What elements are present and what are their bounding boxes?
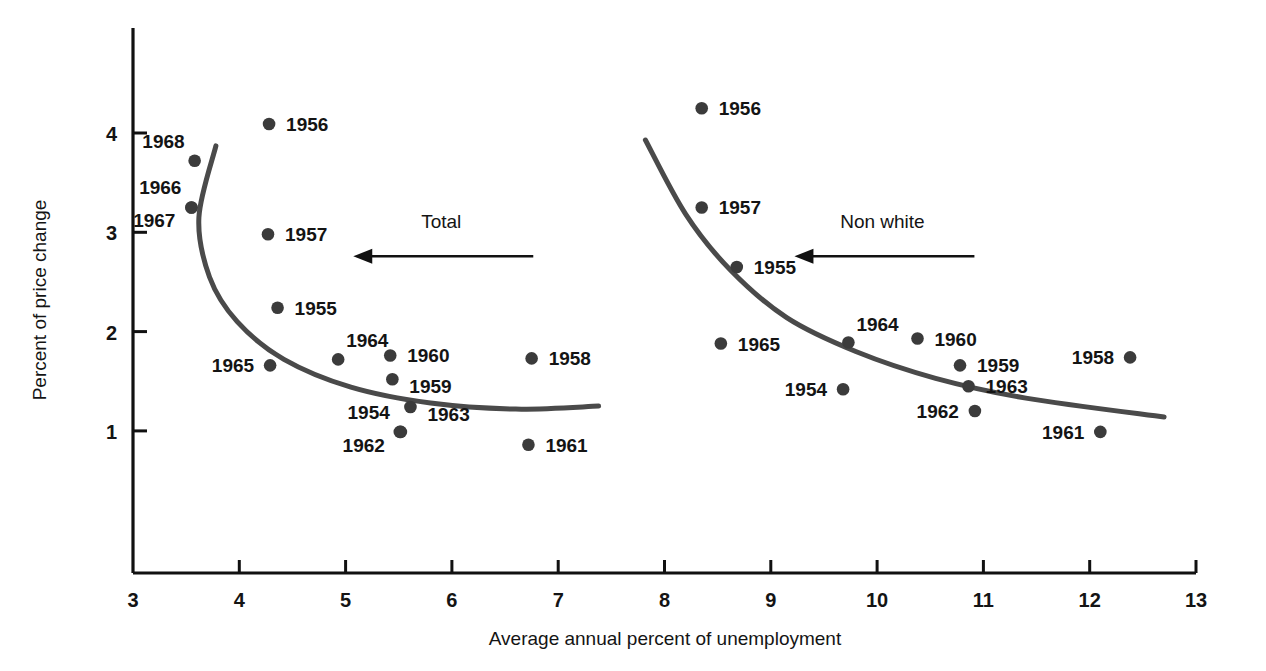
annotation-arrow-head	[794, 249, 813, 264]
data-point: 1957	[695, 197, 761, 218]
x-tick-label: 10	[866, 589, 888, 611]
point-marker	[842, 336, 855, 349]
point-label-1966: 1966	[139, 177, 181, 198]
data-point: 1958	[525, 348, 591, 369]
point-marker	[969, 405, 982, 418]
point-label-1958: 1958	[549, 348, 591, 369]
point-marker	[271, 301, 284, 314]
point-label-1968: 1968	[142, 131, 184, 152]
x-tick-label: 11	[973, 589, 994, 611]
x-tick-label: 5	[340, 589, 351, 611]
point-label-1959: 1959	[409, 376, 451, 397]
data-point: 1959	[954, 355, 1020, 376]
point-label-1960: 1960	[407, 345, 449, 366]
point-marker	[404, 401, 417, 414]
data-point: 1959	[386, 373, 452, 397]
point-marker	[954, 359, 967, 372]
chart-canvas: 345678910111213 1234 1954195519561957195…	[0, 0, 1266, 671]
point-label-1964: 1964	[856, 314, 899, 335]
y-tick-label: 3	[106, 222, 117, 244]
y-tick-label: 4	[106, 123, 118, 145]
point-label-1956: 1956	[719, 98, 761, 119]
data-point: 1964	[332, 330, 389, 365]
fit-curve-non-white	[645, 140, 1164, 417]
point-marker	[263, 118, 276, 131]
point-label-1960: 1960	[934, 329, 976, 350]
point-label-1963: 1963	[986, 376, 1028, 397]
data-point: 1955	[271, 298, 337, 319]
x-tick-label: 3	[127, 589, 138, 611]
point-label-1961: 1961	[545, 435, 588, 456]
data-point: 1958	[1072, 347, 1137, 368]
y-tick-label: 1	[106, 421, 117, 443]
point-marker	[264, 359, 277, 372]
point-marker	[395, 426, 408, 439]
point-marker	[962, 380, 975, 393]
annotation-arrow-head	[353, 249, 372, 264]
data-point: 1967	[133, 201, 198, 231]
axes-group	[133, 28, 1196, 573]
data-point: 1963	[962, 376, 1028, 397]
x-tick-label: 4	[234, 589, 246, 611]
data-point: 1962	[917, 401, 982, 422]
point-label-1956: 1956	[286, 114, 328, 135]
data-point: 1957	[262, 224, 328, 245]
point-label-1961: 1961	[1042, 422, 1085, 443]
data-point: 1960	[384, 345, 450, 366]
x-axis-ticks: 345678910111213	[127, 560, 1207, 611]
data-point: 1968	[142, 131, 201, 167]
x-tick-label: 9	[765, 589, 776, 611]
point-marker	[695, 201, 708, 214]
point-marker	[522, 439, 535, 452]
data-point: 1956	[263, 114, 329, 135]
x-axis-title: Average annual percent of unemployment	[489, 628, 842, 649]
point-marker	[1094, 426, 1107, 439]
data-points: 1954195519561957195819591960196119621963…	[133, 98, 1136, 456]
y-axis-ticks: 1234	[106, 123, 147, 443]
fit-curve-total	[199, 146, 599, 409]
point-label-1954: 1954	[348, 402, 391, 423]
phillips-curve-chart: 345678910111213 1234 1954195519561957195…	[0, 0, 1266, 671]
point-label-1967: 1967	[133, 210, 175, 231]
point-label-1963: 1963	[427, 404, 469, 425]
point-label-1954: 1954	[785, 379, 828, 400]
data-point: 1964	[842, 314, 899, 349]
point-marker	[715, 337, 728, 350]
x-tick-label: 13	[1185, 589, 1207, 611]
point-marker	[386, 373, 399, 386]
point-marker	[262, 228, 275, 241]
point-label-1955: 1955	[295, 298, 338, 319]
point-marker	[1124, 351, 1137, 364]
point-label-1962: 1962	[917, 401, 959, 422]
x-tick-label: 8	[659, 589, 670, 611]
point-marker	[332, 353, 345, 366]
x-tick-label: 12	[1079, 589, 1101, 611]
point-marker	[695, 102, 708, 115]
data-point: 1965	[212, 355, 277, 376]
point-label-1965: 1965	[738, 334, 781, 355]
point-marker	[837, 383, 850, 396]
point-label-1955: 1955	[754, 257, 797, 278]
point-marker	[911, 332, 924, 345]
data-point: 1960	[911, 329, 977, 350]
y-axis-title: Percent of price change	[29, 200, 50, 401]
data-point: 1965	[715, 334, 781, 355]
data-point: 1961	[1042, 422, 1107, 443]
x-tick-label: 7	[553, 589, 564, 611]
chart-annotations: TotalNon white	[353, 211, 974, 263]
data-point: 1962	[343, 426, 408, 456]
point-label-1959: 1959	[977, 355, 1019, 376]
point-marker	[188, 155, 201, 168]
point-marker	[185, 201, 198, 214]
point-label-1958: 1958	[1072, 347, 1114, 368]
x-tick-label: 6	[446, 589, 457, 611]
data-point: 1961	[522, 435, 588, 456]
data-point: 1954	[785, 379, 850, 400]
data-point: 1956	[695, 98, 761, 119]
data-point: 1963	[404, 401, 470, 425]
total-arrow-label: Total	[421, 211, 461, 232]
point-marker	[730, 261, 743, 274]
point-label-1957: 1957	[285, 224, 327, 245]
point-label-1964: 1964	[346, 330, 389, 351]
y-tick-label: 2	[106, 322, 117, 344]
